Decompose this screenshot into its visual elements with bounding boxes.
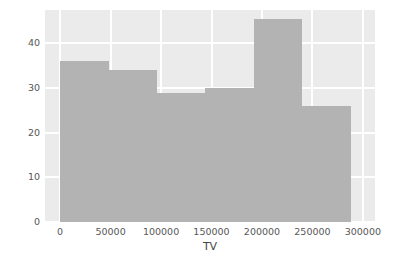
x-tick-label: 250000 — [294, 226, 330, 238]
histogram-bar — [302, 106, 350, 222]
x-tick-label: 300000 — [345, 226, 381, 238]
histogram-bar — [254, 19, 302, 222]
y-tick-label: 40 — [2, 38, 40, 48]
histogram-figure: 010203040 050000100000150000200000250000… — [0, 0, 407, 271]
histogram-bar — [205, 88, 253, 222]
y-tick-label: 0 — [2, 217, 40, 227]
x-axis-label: TV — [45, 240, 375, 254]
histogram-bar — [60, 61, 108, 222]
x-tick-label: 0 — [57, 226, 63, 238]
y-tick-label: 10 — [2, 172, 40, 182]
x-tick-label: 200000 — [244, 226, 280, 238]
y-axis-tick-labels: 010203040 — [0, 10, 40, 222]
y-tick-label: 30 — [2, 83, 40, 93]
x-tick-label: 150000 — [193, 226, 229, 238]
plot-area — [45, 10, 375, 222]
histogram-bar — [157, 93, 205, 222]
x-axis-tick-labels: 050000100000150000200000250000300000 — [45, 226, 375, 240]
x-tick-label: 100000 — [143, 226, 179, 238]
y-tick-label: 20 — [2, 128, 40, 138]
x-tick-label: 50000 — [95, 226, 125, 238]
histogram-bar — [109, 70, 157, 222]
gridline-vertical — [362, 10, 364, 222]
